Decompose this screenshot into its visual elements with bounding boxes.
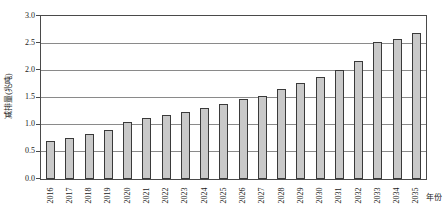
x-tick-label: 2019 [103, 187, 112, 203]
x-tick-label: 2032 [353, 187, 362, 203]
bar-2020 [123, 122, 132, 179]
x-tick-label: 2017 [64, 187, 73, 203]
bar-2018 [85, 134, 94, 179]
bar-2023 [181, 112, 190, 179]
gridline-1.0 [41, 124, 426, 125]
x-tick-label: 2028 [276, 187, 285, 203]
y-tick-label-1.0: 1.0 [0, 118, 35, 129]
bar-2021 [142, 118, 151, 179]
y-tick-label-0.5: 0.5 [0, 145, 35, 156]
y-tick-mark [36, 151, 40, 152]
y-tick-mark [36, 42, 40, 43]
bar-2031 [335, 70, 344, 179]
bar-2033 [373, 42, 382, 179]
x-tick-label: 2025 [218, 187, 227, 203]
bar-2019 [104, 130, 113, 179]
bar-2035 [412, 33, 421, 179]
bar-2029 [296, 83, 305, 179]
bar-2024 [200, 108, 209, 179]
bar-2026 [239, 99, 248, 179]
y-tick-label-3.0: 3.0 [0, 10, 35, 21]
bar-2025 [219, 104, 228, 179]
x-tick-label: 2022 [161, 187, 170, 203]
bar-2016 [46, 141, 55, 179]
bar-2034 [393, 39, 402, 179]
x-tick-label: 2034 [392, 187, 401, 203]
bar-2027 [258, 96, 267, 179]
y-tick-label-2.5: 2.5 [0, 37, 35, 48]
gridline-1.5 [41, 97, 426, 98]
y-tick-label-1.5: 1.5 [0, 91, 35, 102]
x-tick-label: 2031 [334, 187, 343, 203]
y-tick-mark [36, 15, 40, 16]
gridline-2.5 [41, 43, 426, 44]
y-tick-mark [36, 69, 40, 70]
x-tick-label: 2030 [315, 187, 324, 203]
x-tick-label: 2029 [295, 187, 304, 203]
y-tick-label-0.0: 0.0 [0, 173, 35, 184]
x-axis-title: 年份 [426, 191, 442, 202]
x-tick-label: 2024 [199, 187, 208, 203]
plot-area [40, 15, 427, 180]
x-tick-label: 2016 [45, 187, 54, 203]
gridline-0.5 [41, 151, 426, 152]
bar-2022 [162, 115, 171, 179]
y-tick-mark [36, 124, 40, 125]
y-tick-mark [36, 97, 40, 98]
bar-2030 [316, 77, 325, 179]
x-tick-label: 2018 [84, 187, 93, 203]
bar-2032 [354, 61, 363, 179]
x-tick-label: 2027 [257, 187, 266, 203]
x-tick-label: 2035 [411, 187, 420, 203]
x-tick-label: 2026 [238, 187, 247, 203]
bar-chart-figure: 减排量(兆吨) 0.00.51.01.52.02.53.0 2016201720… [0, 0, 448, 212]
y-tick-mark [36, 178, 40, 179]
x-tick-label: 2033 [372, 187, 381, 203]
bar-2028 [277, 89, 286, 179]
y-tick-label-2.0: 2.0 [0, 64, 35, 75]
bar-2017 [65, 138, 74, 179]
gridline-2.0 [41, 70, 426, 71]
x-tick-label: 2023 [180, 187, 189, 203]
x-tick-label: 2021 [141, 187, 150, 203]
x-tick-label: 2020 [122, 187, 131, 203]
